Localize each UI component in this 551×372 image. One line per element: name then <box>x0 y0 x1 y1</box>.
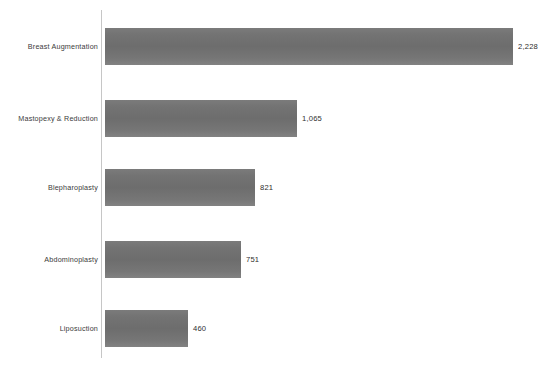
plot-area: Breast Augmentation2,228Mastopexy & Redu… <box>0 0 551 372</box>
bar-value-label: 821 <box>260 169 273 206</box>
bar-row: Liposuction460 <box>0 310 551 347</box>
category-label: Abdominoplasty <box>44 241 98 278</box>
bar-row: Breast Augmentation2,228 <box>0 28 551 65</box>
bar-row: Abdominoplasty751 <box>0 241 551 278</box>
category-label: Breast Augmentation <box>28 28 98 65</box>
bar-row: Mastopexy & Reduction1,065 <box>0 100 551 137</box>
bar-value-label: 1,065 <box>302 100 322 137</box>
clipped-bottom-caption <box>120 362 420 372</box>
category-label: Mastopexy & Reduction <box>18 100 98 137</box>
bar <box>105 241 241 278</box>
bar <box>105 28 513 65</box>
bar <box>105 310 188 347</box>
category-label: Liposuction <box>60 310 98 347</box>
category-label: Blepharoplasty <box>48 169 98 206</box>
bar <box>105 100 297 137</box>
bar-value-label: 460 <box>193 310 206 347</box>
bar-value-label: 2,228 <box>518 28 538 65</box>
bar-chart: Breast Augmentation2,228Mastopexy & Redu… <box>0 0 551 372</box>
bar <box>105 169 255 206</box>
bar-row: Blepharoplasty821 <box>0 169 551 206</box>
bar-value-label: 751 <box>246 241 259 278</box>
